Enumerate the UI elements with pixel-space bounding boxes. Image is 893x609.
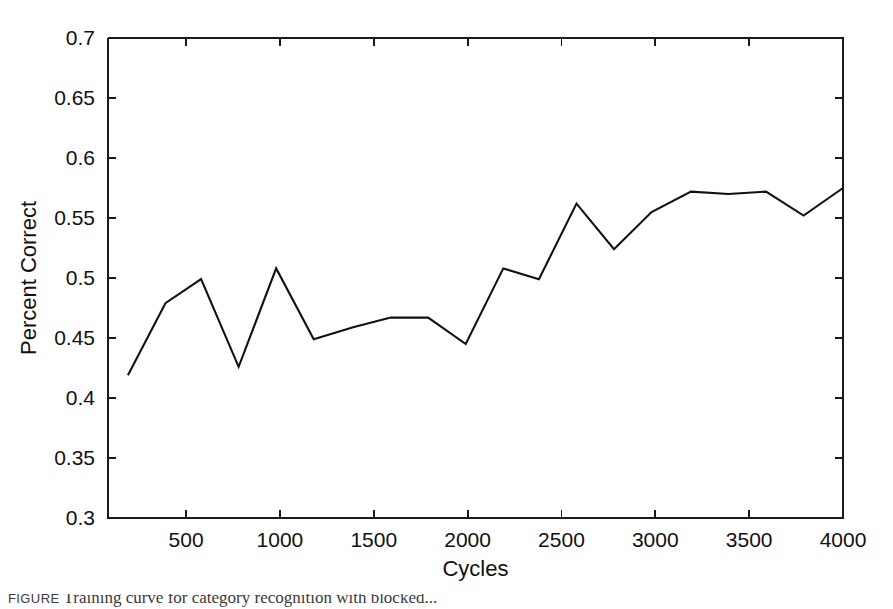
x-axis-title: Cycles [442,556,508,581]
caption-label: FIGURE [8,594,60,606]
x-tick-label: 1500 [350,528,397,551]
y-axis-title: Percent Correct [16,201,41,355]
y-tick-label: 0.5 [66,266,95,289]
figure-container: 0.30.350.40.450.50.550.60.650.7500100015… [0,0,893,609]
x-tick-label: 4000 [820,528,867,551]
axis-box [108,38,843,518]
x-tick-label: 2000 [444,528,491,551]
x-tick-label: 2500 [538,528,585,551]
y-tick-label: 0.45 [54,326,95,349]
y-tick-label: 0.6 [66,146,95,169]
y-tick-label: 0.55 [54,206,95,229]
y-tick-label: 0.65 [54,86,95,109]
y-tick-label: 0.35 [54,446,95,469]
x-tick-label: 3000 [632,528,679,551]
y-tick-label: 0.4 [66,386,96,409]
y-tick-label: 0.3 [66,506,95,529]
x-tick-label: 1000 [257,528,304,551]
figure-caption: FIGURE Training curve for category recog… [0,594,893,609]
caption-body: Training curve for category recognition … [63,594,437,607]
data-series-line [128,188,843,375]
line-chart: 0.30.350.40.450.50.550.60.650.7500100015… [0,0,893,609]
x-tick-label: 3500 [726,528,773,551]
caption-line: FIGURE Training curve for category recog… [8,594,437,608]
y-tick-label: 0.7 [66,26,95,49]
x-tick-label: 500 [169,528,204,551]
